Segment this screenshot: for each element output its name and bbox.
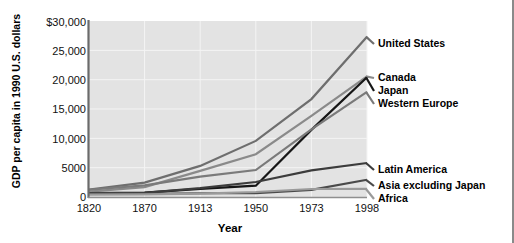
legend-label-africa: Africa: [378, 193, 408, 204]
legend-label-united-states: United States: [378, 38, 445, 49]
x-tick-label: 1870: [122, 203, 168, 214]
legend-label-western-europe: Western Europe: [378, 98, 458, 109]
legend-label-japan: Japan: [378, 85, 408, 96]
chart-figure: GDP per capita in 1990 U.S. dollars $30,…: [0, 0, 514, 243]
x-tick-label: 1820: [66, 203, 112, 214]
legend-label-asia-excluding-japan: Asia excluding Japan: [378, 180, 485, 191]
x-tick-label: 1950: [233, 203, 279, 214]
x-axis-title: Year: [0, 222, 460, 234]
legend-label-canada: Canada: [378, 72, 416, 83]
legend-label-latin-america: Latin America: [378, 164, 447, 175]
x-tick-label: 1973: [288, 203, 334, 214]
x-tick-label: 1998: [344, 203, 390, 214]
x-tick-label: 1913: [177, 203, 223, 214]
